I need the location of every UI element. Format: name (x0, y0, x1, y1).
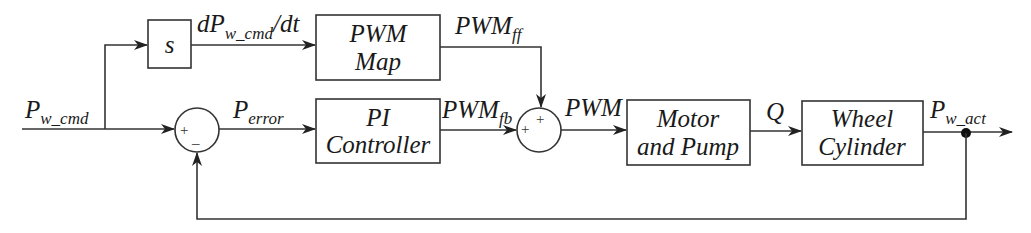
pwm-map-line2: Map (354, 48, 401, 75)
flow-label: Q (766, 98, 784, 125)
input-signal-label: Pw_cmd (24, 96, 89, 128)
derivative-signal-label: dPw_cmd/dt (197, 10, 300, 43)
wheel-cylinder-line2: Cylinder (818, 133, 906, 160)
pi-controller-line1: PI (365, 104, 391, 131)
motor-pump-line1: Motor (656, 105, 720, 132)
error-signal-label: Perror (232, 96, 284, 128)
pwm-map-line1: PWM (349, 20, 408, 47)
pwm-label: PWM (564, 94, 623, 121)
branch-wire (105, 45, 147, 129)
motor-pump-line2: and Pump (637, 133, 739, 160)
derivative-block-label: s (165, 31, 175, 58)
sum2-plus-top: + (536, 111, 544, 127)
output-signal-label: Pw_act (929, 96, 987, 128)
block-diagram: s dPw_cmd/dt PWM Map PWMff + _ Perror PI… (0, 0, 1031, 233)
pi-controller-line2: Controller (326, 131, 431, 158)
pwm-fb-label: PWMfb (441, 96, 512, 128)
pwm-ff-label: PWMff (454, 12, 524, 44)
sum1-plus-sign: + (180, 122, 188, 138)
sum1-minus-sign: _ (191, 130, 200, 146)
wheel-cylinder-line1: Wheel (831, 105, 894, 132)
sum2-plus-left: + (521, 121, 529, 137)
